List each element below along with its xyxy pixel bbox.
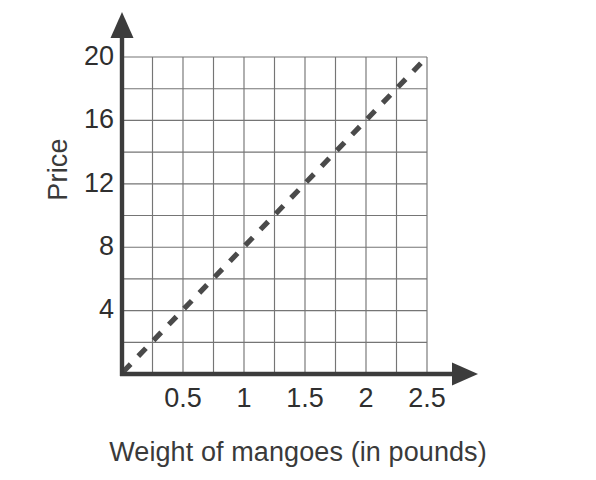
y-tick-label: 4 xyxy=(54,296,114,323)
y-axis-title: Price xyxy=(43,110,74,230)
y-tick-label: 20 xyxy=(54,43,114,70)
graph-figure: 20 16 12 8 4 0.5 1 1.5 2 2.5 Price Weigh… xyxy=(0,0,596,480)
x-axis-title: Weight of mangoes (in pounds) xyxy=(0,437,596,468)
grid-lines xyxy=(122,57,427,374)
x-tick-labels: 0.5 1 1.5 2 2.5 xyxy=(0,385,596,425)
x-axis-arrowhead xyxy=(452,363,478,386)
y-tick-label: 8 xyxy=(54,233,114,260)
x-tick-label: 2.5 xyxy=(387,385,467,412)
